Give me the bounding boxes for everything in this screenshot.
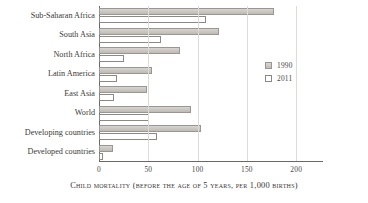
x-tick-label: 50 [144, 165, 152, 174]
legend-item-1990: 1990 [265, 60, 293, 71]
category-label: Developing countries [0, 128, 95, 137]
category-label: Latin America [0, 69, 95, 78]
gridline-50 [148, 6, 149, 161]
chart-legend: 19902011 [265, 60, 293, 86]
bar-2011 [99, 55, 124, 62]
legend-swatch-icon [265, 75, 272, 82]
child-mortality-bar-chart: Sub-Saharan AfricaSouth AsiaNorth Africa… [0, 0, 368, 203]
bar-1990 [99, 106, 191, 113]
legend-item-2011: 2011 [265, 73, 293, 84]
x-tick-label: 100 [192, 165, 204, 174]
bar-2011 [99, 16, 206, 23]
bar-2011 [99, 153, 103, 160]
category-label: World [0, 108, 95, 117]
category-label: Sub-Saharan Africa [0, 11, 95, 20]
category-label: North Africa [0, 50, 95, 59]
x-tick-label: 0 [97, 165, 101, 174]
category-label: South Asia [0, 30, 95, 39]
chart-caption: Child mortality (before the age of 5 yea… [0, 181, 368, 190]
gridline-200 [296, 6, 297, 161]
bar-2011 [99, 94, 114, 101]
bar-2011 [99, 36, 161, 43]
bar-1990 [99, 67, 152, 74]
category-axis-labels: Sub-Saharan AfricaSouth AsiaNorth Africa… [0, 6, 95, 162]
bar-2011 [99, 114, 149, 121]
category-label: East Asia [0, 89, 95, 98]
bar-1990 [99, 145, 113, 152]
bar-2011 [99, 75, 117, 82]
legend-label: 2011 [277, 74, 292, 83]
x-tick-label: 200 [290, 165, 302, 174]
bar-1990 [99, 47, 180, 54]
gridline-150 [247, 6, 248, 161]
category-label: Developed countries [0, 147, 95, 156]
bar-1990 [99, 86, 147, 93]
legend-label: 1990 [277, 61, 293, 70]
legend-swatch-icon [265, 62, 272, 69]
gridline-100 [198, 6, 199, 161]
bar-1990 [99, 125, 201, 132]
x-tick-label: 150 [241, 165, 253, 174]
bar-1990 [99, 28, 219, 35]
